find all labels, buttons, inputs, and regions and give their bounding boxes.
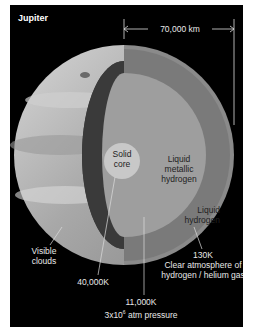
atmosphere-label: 130K Clear atmosphere of hydrogen / heli… (158, 250, 243, 280)
scale-label: 70,000 km (150, 24, 210, 34)
visible-clouds-label: Visibleclouds (24, 246, 64, 266)
core-temp-label: 40,000K (68, 277, 118, 287)
core-label: Solidcore (106, 149, 138, 169)
diagram-panel: Jupiter (10, 5, 243, 327)
metallic-hydrogen-label: Liquidmetallichydrogen (154, 154, 204, 184)
metallic-boundary-label: 11,000K 3x106 atm pressure (96, 297, 186, 320)
liquid-hydrogen-label: Liquidhydrogen (160, 205, 220, 225)
